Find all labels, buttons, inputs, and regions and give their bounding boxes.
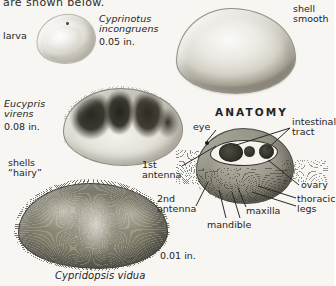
- eucypris-virens-size: 0.08 in.: [4, 122, 40, 132]
- anatomy-eye-illustration: [205, 141, 209, 145]
- cypridopsis-vidua-name: Cypridopsis vidua: [55, 270, 146, 281]
- shells-hairy-note: shells “hairy”: [8, 158, 42, 179]
- cyprinotus-incongruens-name: Cyprinotus incongruens: [99, 14, 159, 35]
- cyprinotus-incongruens-size: 0.05 in.: [99, 37, 135, 47]
- anatomy-label-maxilla: maxilla: [246, 206, 280, 216]
- anatomy-heading: ANATOMY: [215, 107, 288, 119]
- anatomy-label-ovary: ovary: [301, 180, 328, 190]
- anatomy-gut-segment-illustration: [244, 146, 255, 157]
- anatomy-label-first-antenna: 1st antenna: [142, 160, 181, 181]
- anatomy-label-thoracic-legs: thoracic legs: [297, 194, 335, 215]
- anatomy-ovary-illustration: [259, 144, 274, 159]
- anatomy-label-second-antenna: 2nd antenna: [157, 194, 196, 215]
- shell-smooth-note: shell smooth: [293, 4, 329, 25]
- anatomy-label-intestinal-tract: intestinal tract: [292, 117, 336, 138]
- anatomy-label-mandible: mandible: [207, 220, 251, 230]
- cypridopsis-vidua-size: 0.01 in.: [160, 251, 196, 261]
- anatomy-gut-mass-illustration: [219, 143, 243, 162]
- anatomy-label-eye: eye: [193, 122, 210, 132]
- eucypris-virens-specimen-illustration: [63, 88, 183, 166]
- cyprinotus-incongruens-specimen-illustration: [176, 8, 296, 94]
- continuation-text: are shown below.: [3, 0, 105, 9]
- eucypris-virens-name: Eucypris virens: [4, 99, 45, 120]
- larva-label: larva: [3, 31, 27, 41]
